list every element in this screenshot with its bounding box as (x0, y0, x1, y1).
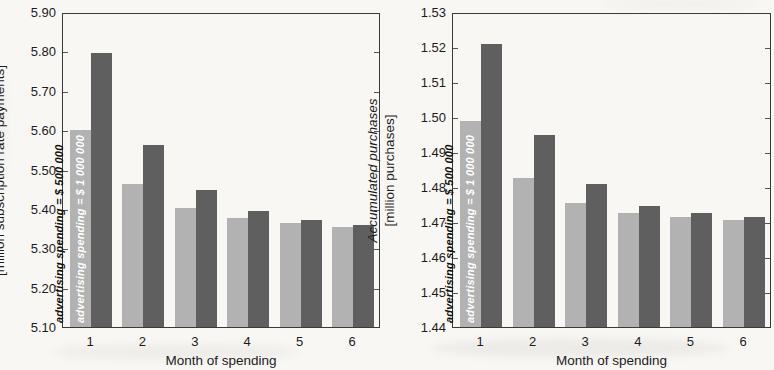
y-tick-label-1.46: 1.46 (390, 250, 446, 266)
chart-accumulated-purchases: Accumulated purchases [million purchases… (0, 0, 774, 370)
y-tick-label-1.51: 1.51 (390, 75, 446, 91)
bar-month-3-spend-1m (586, 184, 607, 328)
bar-month-3-spend-500k (565, 203, 586, 327)
y-tick-mark (765, 258, 770, 259)
y-tick-mark (765, 188, 770, 189)
x-tick-label-4: 4 (618, 334, 658, 350)
y-tick-mark (765, 118, 770, 119)
y-tick-label-1.53: 1.53 (390, 5, 446, 21)
y-tick-mark (765, 293, 770, 294)
series-label-spend-1m: advertising spending = $ 1 000 000 (460, 52, 481, 324)
x-tick-label-3: 3 (565, 334, 605, 350)
x-tick-label-6: 6 (723, 334, 763, 350)
y-tick-label-1.45: 1.45 (390, 285, 446, 301)
y-tick-label-1.49: 1.49 (390, 145, 446, 161)
y-tick-label-1.48: 1.48 (390, 180, 446, 196)
y-tick-mark (765, 48, 770, 49)
bar-month-4-spend-1m (639, 206, 660, 327)
x-axis-title: Month of spending (452, 353, 771, 368)
x-tick-label-1: 1 (460, 334, 500, 350)
y-tick-label-1.52: 1.52 (390, 40, 446, 56)
y-tick-label-1.47: 1.47 (390, 215, 446, 231)
bar-month-6-spend-1m (744, 217, 765, 327)
y-tick-mark (453, 83, 458, 84)
y-axis-title: Accumulated purchases [million purchases… (364, 13, 398, 328)
y-tick-mark (453, 48, 458, 49)
y-axis-title-line2: [million purchases] (381, 13, 398, 328)
bar-month-2-spend-1m (534, 135, 555, 328)
x-tick-label-2: 2 (513, 334, 553, 350)
bar-month-5-spend-500k (670, 217, 691, 327)
plot-area: advertising spending = $ 500 000advertis… (452, 13, 771, 328)
bar-month-6-spend-500k (723, 220, 744, 327)
bar-month-5-spend-1m (691, 213, 712, 327)
y-tick-mark (765, 153, 770, 154)
x-tick-label-5: 5 (670, 334, 710, 350)
y-tick-mark (453, 118, 458, 119)
y-tick-mark (765, 83, 770, 84)
bar-month-2-spend-500k (513, 178, 534, 327)
two-panel-bar-chart-figure: Accumulated customer-months [million sub… (0, 0, 774, 370)
y-tick-label-1.50: 1.50 (390, 110, 446, 126)
series-label-spend-500k: advertising spending = $ 500 000 (439, 129, 460, 324)
y-axis-title-line1: Accumulated purchases (364, 13, 381, 328)
bar-month-1-spend-1m (481, 44, 502, 328)
bar-month-4-spend-500k (618, 213, 639, 327)
y-tick-mark (765, 223, 770, 224)
y-tick-label-1.44: 1.44 (390, 320, 446, 336)
